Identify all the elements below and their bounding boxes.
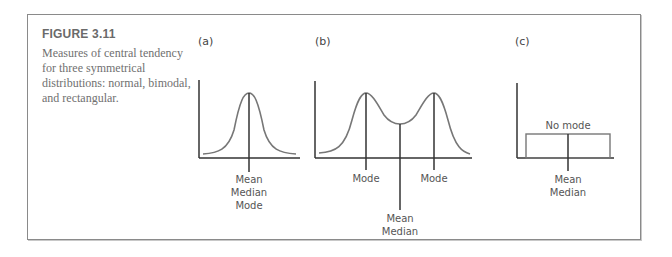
mean-label: Mean [554, 174, 581, 185]
panel-a-label: (a) [198, 35, 213, 48]
median-label: Median [382, 226, 418, 237]
panel-c-label: (c) [515, 35, 530, 48]
left-mode-label: Mode [352, 173, 379, 184]
bimodal-curve [319, 93, 470, 154]
median-label: Median [550, 187, 586, 198]
right-mode-label: Mode [420, 173, 447, 184]
no-mode-label: No mode [545, 120, 590, 131]
mean-label: Mean [386, 213, 413, 224]
panel-c-rectangular-chart: (c) No mode Mean Median [515, 35, 614, 198]
panel-b-bimodal-chart: (b) Mode Mode Mean Median [315, 35, 472, 237]
mode-label: Mode [235, 200, 262, 211]
figure-charts: (a) Mean Median Mode (b) Mode Mode Mean … [0, 0, 672, 257]
panel-b-label: (b) [315, 35, 331, 48]
panel-a-normal-chart: (a) Mean Median Mode [198, 35, 300, 211]
mean-label: Mean [235, 174, 262, 185]
median-label: Median [231, 187, 267, 198]
